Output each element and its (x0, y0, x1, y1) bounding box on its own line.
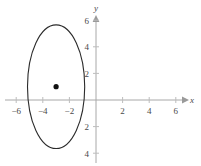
x-tick-label-6: 6 (174, 106, 179, 116)
y-tick-label-6: 6 (85, 16, 90, 26)
y-axis-arrow-icon (93, 15, 100, 22)
x-tick-label--4: −4 (38, 106, 48, 116)
x-tick-label-2: 2 (120, 106, 125, 116)
graph-svg: −6 −4 −2 2 4 6 6 4 2 2 4 x y (0, 0, 201, 166)
x-tick-label--2: −2 (65, 106, 75, 116)
x-axis-arrow-icon (182, 97, 189, 104)
y-tick-label--2: 2 (85, 122, 90, 132)
x-axis-label: x (189, 95, 194, 105)
y-tick-label-2: 2 (85, 69, 90, 79)
center-point-marker (54, 84, 59, 89)
x-tick-label-4: 4 (147, 106, 152, 116)
y-tick-label--4: 4 (85, 149, 90, 159)
y-axis-label: y (93, 3, 98, 13)
coordinate-plane-figure: −6 −4 −2 2 4 6 6 4 2 2 4 x y (0, 0, 201, 166)
y-tick-label-4: 4 (85, 42, 90, 52)
x-tick-label--6: −6 (11, 106, 21, 116)
